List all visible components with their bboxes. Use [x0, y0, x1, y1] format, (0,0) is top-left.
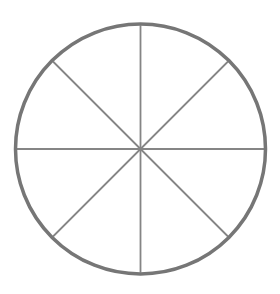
diagram-canvas: [0, 0, 280, 294]
eighths-circle-diagram: [0, 0, 280, 294]
spokes-group: [17, 25, 265, 273]
